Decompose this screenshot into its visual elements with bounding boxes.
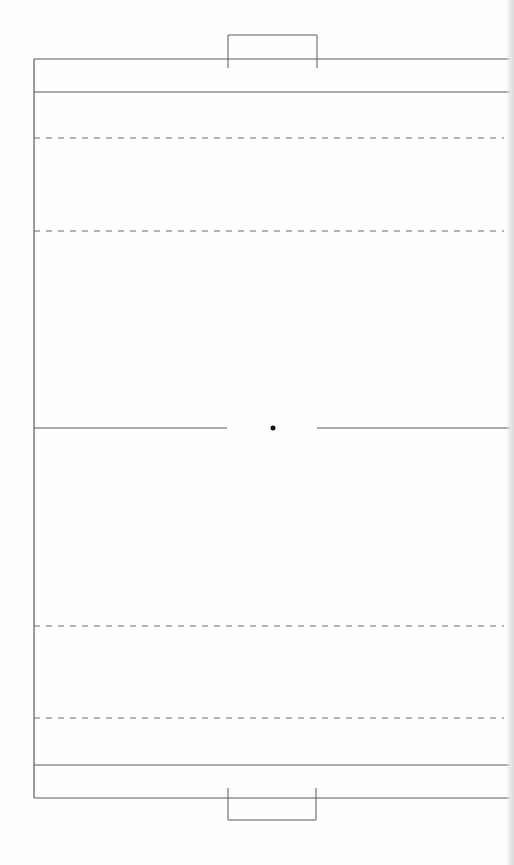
field-diagram bbox=[0, 0, 514, 865]
diagram-page bbox=[0, 0, 514, 865]
page-edge-shadow bbox=[506, 0, 514, 865]
bottom-goal bbox=[228, 788, 316, 820]
top-goal bbox=[228, 35, 317, 68]
center-spot bbox=[271, 426, 276, 431]
